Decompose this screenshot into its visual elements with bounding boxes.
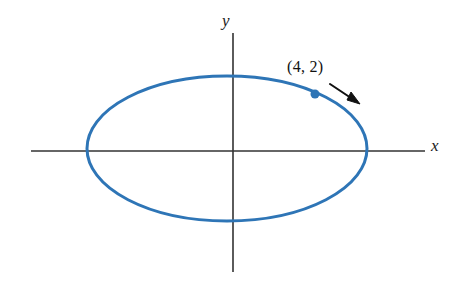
figure-background [0,0,459,284]
data-point-label: (4, 2) [287,58,323,76]
ellipse-figure: y x (4, 2) [0,0,459,284]
figure-canvas: y x (4, 2) [0,0,459,284]
x-axis-label: x [430,136,439,155]
data-point-marker[interactable] [311,90,320,99]
y-axis-label: y [220,11,230,30]
